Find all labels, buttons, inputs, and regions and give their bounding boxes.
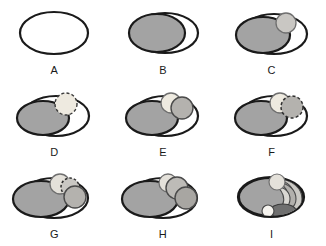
panel-g: G xyxy=(0,164,109,246)
panel-e: E xyxy=(109,82,218,164)
panel-g-art xyxy=(2,167,106,227)
outer-ellipse xyxy=(20,12,88,54)
dashed-gray-follicle xyxy=(281,96,303,118)
panel-c-art xyxy=(220,3,324,63)
gray-follicle xyxy=(175,187,197,209)
panel-label-d: D xyxy=(50,146,58,158)
panel-label-b: B xyxy=(159,64,167,76)
panel-label-h: H xyxy=(159,228,167,240)
panel-h: H xyxy=(109,164,218,246)
panel-label-a: A xyxy=(51,64,59,76)
large-gray-ellipse xyxy=(129,14,185,52)
panel-d-art xyxy=(2,85,106,145)
panel-a: A xyxy=(0,0,109,82)
panel-grid: A B C D xyxy=(0,0,326,246)
panel-label-i: I xyxy=(270,228,273,240)
panel-f-art xyxy=(220,85,324,145)
gray-follicle xyxy=(64,186,86,208)
panel-f: F xyxy=(217,82,326,164)
panel-i: I xyxy=(217,164,326,246)
gray-follicle xyxy=(171,97,193,119)
panel-label-g: G xyxy=(50,228,59,240)
panel-label-e: E xyxy=(159,146,167,158)
panel-a-art xyxy=(2,3,106,63)
panel-label-f: F xyxy=(268,146,275,158)
panel-b: B xyxy=(109,0,218,82)
panel-i-art xyxy=(220,167,324,227)
panel-label-c: C xyxy=(268,64,276,76)
small-follicle xyxy=(276,13,296,33)
dashed-pale-follicle xyxy=(55,93,77,115)
follicle-development-figure: A B C D xyxy=(0,0,326,246)
panel-b-art xyxy=(111,3,215,63)
white-corpus-albicans xyxy=(262,205,274,217)
panel-e-art xyxy=(111,85,215,145)
panel-h-art xyxy=(111,167,215,227)
pale-follicle xyxy=(269,174,285,190)
panel-c: C xyxy=(217,0,326,82)
panel-d: D xyxy=(0,82,109,164)
